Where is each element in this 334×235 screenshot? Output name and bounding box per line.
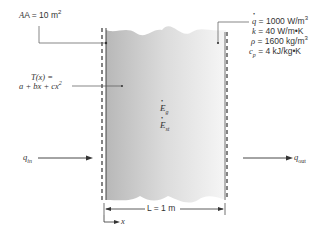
area-label: AA = 10 m2	[19, 11, 61, 20]
q-in-label: qin	[23, 153, 32, 162]
energy-stored-label: Est	[160, 121, 170, 130]
rho-property: ρ = 1600 kg/m3	[251, 37, 308, 46]
energy-generated-label: Eg	[160, 104, 169, 113]
x-axis-label: x	[121, 217, 125, 226]
k-property: k = 40 W/m•K	[252, 27, 303, 36]
temperature-label-line2: a + bx + cx2	[19, 82, 62, 91]
length-label: L = 1 m	[147, 204, 175, 213]
q-dot-property: q = 1000 W/m3	[252, 17, 308, 26]
q-out-label: qout	[294, 153, 306, 162]
cp-property: cp = 4 kJ/kg•K	[249, 47, 301, 56]
